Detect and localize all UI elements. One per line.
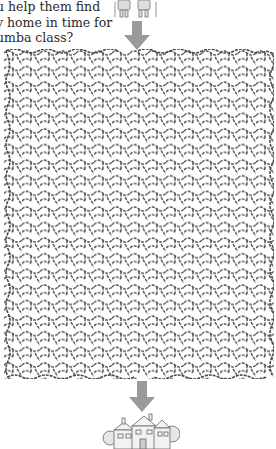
instruction-line-3: umba class? xyxy=(0,30,112,46)
instruction-line-2: y home in time for xyxy=(0,15,112,31)
puzzle-instructions: u help them find y home in time for umba… xyxy=(0,0,112,46)
house-icon xyxy=(102,412,180,449)
end-arrow-icon xyxy=(127,381,157,413)
couple-walking-icon xyxy=(112,0,162,18)
instruction-line-1: u help them find xyxy=(0,0,112,15)
start-arrow-icon xyxy=(122,21,152,51)
maze-grid[interactable] xyxy=(4,49,274,379)
